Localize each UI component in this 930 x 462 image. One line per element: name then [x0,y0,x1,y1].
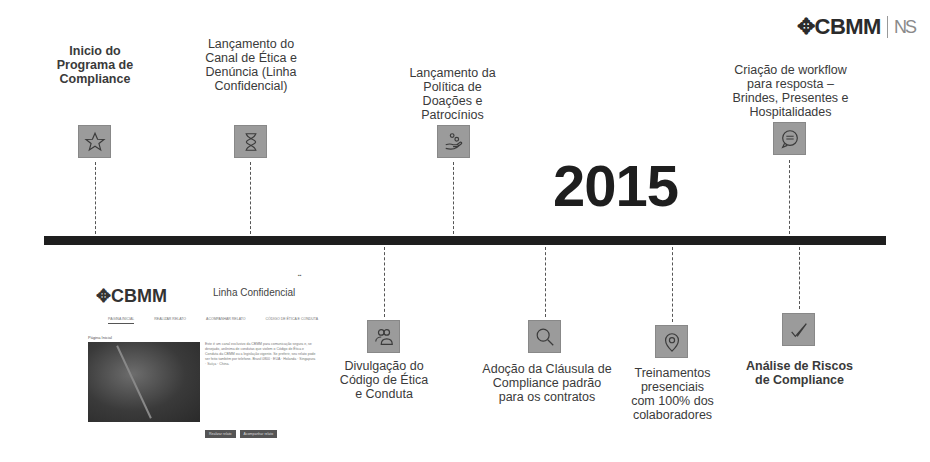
screenshot-heading: Página Inicial [88,335,112,340]
event-title: Divulgação do Código de Ética e Conduta [334,359,434,401]
cbmm-logo: ✥CBMM NS [797,14,915,40]
event-politica-doacoes: Lançamento da Política de Doações e Patr… [400,66,505,122]
event-title: Lançamento do Canal de Ética e Denúncia … [196,37,306,93]
tab-codigo-etica: Código de ética e conduta [266,317,318,324]
screenshot-title: Linha Confidencial [213,287,295,298]
star-icon [78,125,111,158]
hourglass-icon [234,125,267,158]
realizar-relato-button: Realizar relato [205,430,236,438]
tab-realizar-relato: Realizar relato [154,317,186,324]
connector-line [384,247,385,317]
event-workflow-brindes: Criação de workflow para resposta – Brin… [728,63,853,119]
event-clausula-compliance: Adoção da Cláusula de Compliance padrão … [477,362,617,404]
connector-line [250,162,251,234]
event-treinamentos: Treinamentos presenciais com 100% dos co… [625,366,720,422]
logo-divider [887,16,888,38]
connector-line [672,247,673,322]
magnifier-icon [528,320,561,353]
cbmm-symbol-icon: ✥ [96,286,111,306]
tab-acompanhar-relato: Acompanhar relato [206,317,245,324]
event-title: Lançamento da Política de Doações e Patr… [400,66,505,122]
event-inicio-programa: Inicio do Programa de Compliance [50,44,140,86]
year-label: 2015 [553,152,678,219]
tab-pagina-inicial: Página inicial [108,317,134,324]
connector-line [789,160,790,234]
connector-line [799,247,800,309]
event-canal-etica: Lançamento do Canal de Ética e Denúncia … [196,37,306,93]
timeline-bar [44,236,886,245]
screenshot-buttons: Realizar relato Acompanhar relato [205,430,277,438]
event-title: Inicio do Programa de Compliance [50,44,140,86]
ns-logo: NS [894,17,915,38]
screenshot-tabs: Página inicial Realizar relato Acompanha… [108,317,318,324]
language-flags: ▪▪ [298,272,302,278]
event-analise-riscos: Análise de Riscos de Compliance [742,359,857,387]
cbmm-symbol-icon: ✥ [797,14,815,39]
check-icon [782,313,815,346]
event-title: Adoção da Cláusula de Compliance padrão … [477,362,617,404]
event-title: Criação de workflow para resposta – Brin… [728,63,853,119]
cbmm-logo-mark: ✥CBMM [797,14,881,40]
location-pin-icon [655,325,688,358]
aerial-photo [88,342,200,422]
linha-confidencial-screenshot: ▪▪ ✥CBMM Linha Confidencial Página inici… [88,270,320,445]
event-title: Análise de Riscos de Compliance [742,359,857,387]
screenshot-body-text: Este é um canal exclusivo da CBMM para c… [205,342,317,367]
event-title: Treinamentos presenciais com 100% dos co… [625,366,720,422]
hand-coins-icon [437,125,470,158]
connector-line [453,162,454,234]
acompanhar-relato-button: Acompanhar relato [240,430,278,438]
chat-bubble-icon [773,122,806,155]
event-divulgacao-codigo: Divulgação do Código de Ética e Conduta [334,359,434,401]
screenshot-cbmm-logo: ✥CBMM [96,285,167,307]
connector-line [545,247,546,317]
connector-line [95,162,96,234]
people-icon [367,320,400,353]
